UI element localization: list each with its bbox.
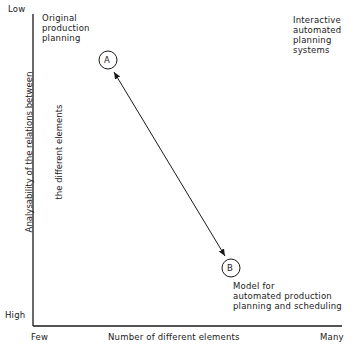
x-axis-left-label: Few <box>31 332 48 342</box>
x-axis-title: Number of different elements <box>108 332 240 342</box>
y-axis-bottom-label: High <box>5 310 25 320</box>
y-axis-title: Analysability of the relations between t… <box>4 42 74 262</box>
point-a-label: A <box>104 55 110 65</box>
annotation-model-automated-production: Model for automated production planning … <box>233 281 342 311</box>
annotation-interactive-automated-planning: Interactive automated planning systems <box>293 15 341 55</box>
point-b-label: B <box>227 263 233 273</box>
y-axis-title-line1: Analysability of the relations between <box>24 42 34 262</box>
double-arrow-connector <box>114 72 225 256</box>
annotation-original-production-planning: Original production planning <box>42 13 90 43</box>
x-axis-right-label: Many <box>320 332 344 342</box>
y-axis-title-line2: the different elements <box>54 42 64 262</box>
y-axis-top-label: Low <box>8 4 25 14</box>
